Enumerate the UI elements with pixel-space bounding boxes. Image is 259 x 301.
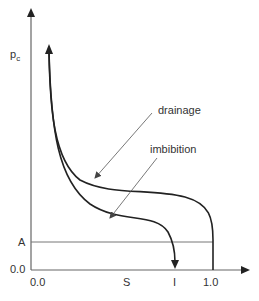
curve-start-arrow-icon [45,44,53,54]
y-axis-arrow-icon [27,8,35,17]
y-axis-label: pc [10,48,20,63]
capillary-pressure-diagram: drainage imbibition pc A 0.0 0.0 S I 1.0 [0,0,259,301]
imbibition-curve [49,52,175,262]
drainage-label: drainage [158,104,201,116]
imbibition-end-arrow-icon [171,260,179,269]
x-tick-i: I [173,276,176,288]
x-tick-s: S [123,276,130,288]
drainage-curve [49,52,213,270]
imbibition-label: imbibition [150,143,196,155]
y-tick-zero: 0.0 [10,263,25,275]
drainage-pointer [95,113,152,178]
x-tick-zero: 0.0 [30,276,45,288]
x-tick-one: 1.0 [203,276,218,288]
y-tick-a: A [18,236,26,248]
x-axis-arrow-icon [241,266,250,274]
imbibition-pointer [110,158,157,218]
